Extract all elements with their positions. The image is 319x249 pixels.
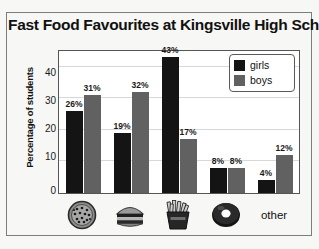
- bar-fries-girls: [162, 57, 179, 193]
- bar-label-fries-boys: 17%: [176, 128, 201, 137]
- y-tick-30: 30: [38, 96, 56, 106]
- x-category-fries: [154, 196, 202, 234]
- legend-swatch-boys-icon: [234, 75, 245, 86]
- y-axis-title: Percentage of students: [24, 53, 35, 183]
- bar-other-girls: [258, 180, 275, 193]
- bar-label-hamburger-boys: 32%: [128, 81, 153, 90]
- x-axis-categories: other: [58, 196, 300, 234]
- x-category-other: other: [250, 196, 298, 234]
- bar-hamburger-girls: [114, 133, 131, 193]
- fries-icon: [163, 199, 193, 231]
- legend-item-boys: boys: [234, 73, 290, 88]
- chart-legend: girls boys: [229, 54, 295, 92]
- bar-label-donut-boys: 8%: [224, 157, 249, 166]
- bar-other-boys: [276, 155, 293, 193]
- bar-label-other-boys: 12%: [272, 144, 297, 153]
- bar-label-fries-girls: 43%: [158, 46, 183, 55]
- y-tick-40: 40: [38, 68, 56, 78]
- y-tick-10: 10: [38, 152, 56, 162]
- hamburger-icon: [114, 201, 146, 229]
- legend-label-boys: boys: [250, 75, 272, 86]
- y-axis-tick-labels: 40 30 20 10 0: [36, 0, 56, 249]
- donut-icon: [210, 201, 242, 229]
- x-category-label-other: other: [261, 209, 287, 221]
- bar-fries-boys: [180, 139, 197, 193]
- y-tick-0: 0: [38, 186, 56, 196]
- bar-pizza-girls: [66, 111, 83, 193]
- legend-item-girls: girls: [234, 58, 290, 73]
- x-category-pizza: [58, 196, 106, 234]
- bar-donut-boys: [228, 168, 245, 193]
- x-category-hamburger: [106, 196, 154, 234]
- x-category-donut: [202, 196, 250, 234]
- y-tick-20: 20: [38, 124, 56, 134]
- legend-label-girls: girls: [250, 60, 269, 71]
- bar-pizza-boys: [84, 95, 101, 193]
- bar-hamburger-boys: [132, 92, 149, 193]
- pizza-icon: [67, 200, 97, 230]
- chart-figure: Fast Food Favourites at Kingsville High …: [0, 0, 319, 249]
- legend-swatch-girls-icon: [234, 60, 245, 71]
- bar-donut-girls: [210, 168, 227, 193]
- bar-label-pizza-boys: 31%: [80, 84, 105, 93]
